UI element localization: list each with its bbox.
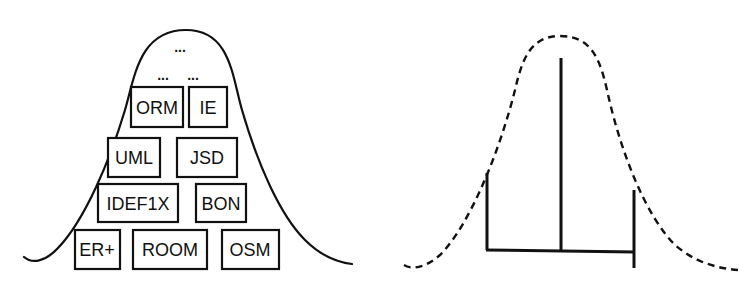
box-label: BON	[201, 194, 240, 214]
notation-box-jsd: JSD	[177, 138, 237, 177]
box-label: ORM	[136, 98, 178, 118]
notation-box-room: ROOM	[133, 230, 207, 269]
ellipsis-left: ...	[157, 67, 169, 83]
box-label: IDEF1X	[106, 194, 169, 214]
box-label: ROOM	[142, 240, 198, 260]
ellipsis-right: ...	[187, 67, 199, 83]
box-label: JSD	[190, 148, 224, 168]
notation-box-uml: UML	[108, 138, 160, 177]
notation-box-idef1x: IDEF1X	[98, 184, 178, 222]
notation-box-bon: BON	[196, 184, 246, 222]
box-label: UML	[115, 148, 153, 168]
box-label: ER+	[79, 240, 115, 260]
baseline	[486, 250, 635, 252]
notation-box-er-plus: ER+	[75, 230, 120, 269]
box-label: IE	[199, 98, 216, 118]
notation-box-ie: IE	[189, 87, 227, 127]
notation-box-orm: ORM	[131, 87, 183, 127]
diagram-canvas: ... ... ... ORM IE UML JSD IDEF1X BON	[0, 0, 753, 296]
right-diagram	[404, 36, 738, 270]
dashed-bell-curve	[404, 36, 738, 270]
box-label: OSM	[229, 240, 270, 260]
left-diagram: ... ... ... ORM IE UML JSD IDEF1X BON	[24, 30, 352, 269]
notation-box-osm: OSM	[222, 230, 279, 269]
ellipsis-top: ...	[174, 39, 186, 55]
